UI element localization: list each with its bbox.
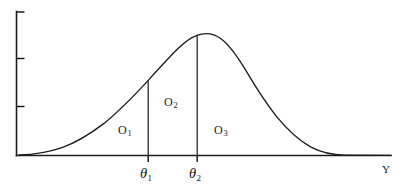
density-figure: O1 O2 O3 θ1 θ2 Y <box>0 0 405 191</box>
region-label-o1-subscript: 1 <box>127 128 132 138</box>
figure-canvas <box>0 0 405 191</box>
threshold-label-theta2-subscript: 2 <box>196 173 201 183</box>
x-axis-label: Y <box>382 164 390 175</box>
region-label-o1: O1 <box>118 124 132 138</box>
threshold-label-theta1: θ1 <box>140 166 152 183</box>
region-label-o2: O2 <box>164 96 178 110</box>
region-label-o3: O3 <box>214 124 228 138</box>
density-curve <box>19 34 391 156</box>
region-label-o2-text: O <box>164 95 173 109</box>
region-label-o2-subscript: 2 <box>173 100 178 110</box>
region-label-o3-subscript: 3 <box>223 128 228 138</box>
threshold-label-theta1-subscript: 1 <box>147 173 152 183</box>
threshold-label-theta2: θ2 <box>189 166 201 183</box>
region-label-o1-text: O <box>118 123 127 137</box>
region-label-o3-text: O <box>214 123 223 137</box>
